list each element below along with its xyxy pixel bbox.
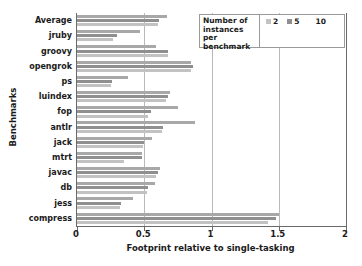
bar-javac-2: [77, 175, 156, 178]
bar-group-opengrok: [77, 59, 346, 74]
bar-groovy-2: [77, 54, 168, 57]
bar-javac-10: [77, 167, 160, 170]
bar-luindex-10: [77, 91, 170, 94]
legend-label-10: 10: [315, 17, 325, 26]
bar-compress-5: [77, 217, 276, 220]
y-tick-label-ps: ps: [62, 77, 73, 86]
x-axis-title: Footprint relative to single-tasking: [76, 243, 345, 253]
y-axis-labels: Averagejrubygroovyopengrokpsluindexfopan…: [0, 13, 76, 226]
legend-swatch-5: [287, 19, 292, 24]
bar-jack-2: [77, 145, 143, 148]
bar-group-jack: [77, 135, 346, 150]
bar-luindex-5: [77, 95, 168, 98]
bar-opengrok-5: [77, 65, 193, 68]
legend-label-5: 5: [294, 17, 299, 26]
y-tick-label-jack: jack: [54, 138, 72, 147]
bar-group-db: [77, 180, 346, 195]
y-tick-label-mtrt: mtrt: [52, 153, 72, 162]
bar-ps-2: [77, 84, 111, 87]
x-tick-label-1.5: 1.5: [270, 229, 285, 239]
bar-fop-2: [77, 115, 148, 118]
bar-groovy-5: [77, 50, 168, 53]
legend-item-2: 2: [266, 17, 278, 26]
legend: Number of instances per benchmark 2510: [199, 14, 345, 48]
bar-group-luindex: [77, 89, 346, 104]
bar-jess-5: [77, 202, 121, 205]
bar-luindex-2: [77, 99, 166, 102]
bar-jess-10: [77, 197, 133, 200]
bar-group-ps: [77, 74, 346, 89]
x-tick-label-0: 0: [73, 229, 79, 239]
bar-fop-5: [77, 110, 151, 113]
bar-jess-2: [77, 206, 120, 209]
bar-Average-2: [77, 23, 158, 26]
bar-group-compress: [77, 211, 346, 226]
x-tick-label-1: 1: [208, 229, 214, 239]
bar-opengrok-10: [77, 61, 191, 64]
legend-label-2: 2: [273, 17, 278, 26]
bar-group-fop: [77, 104, 346, 119]
bar-group-mtrt: [77, 150, 346, 165]
bar-javac-5: [77, 171, 158, 174]
bar-groovy-10: [77, 45, 156, 48]
bar-jruby-10: [77, 30, 140, 33]
chart-root: Benchmarks Averagejrubygroovyopengrokpsl…: [0, 0, 362, 266]
bar-Average-5: [77, 19, 159, 22]
bar-jack-10: [77, 137, 152, 140]
y-tick-label-antlr: antlr: [50, 123, 72, 132]
legend-title: Number of instances per benchmark: [200, 15, 260, 47]
bar-antlr-5: [77, 126, 163, 129]
y-tick-label-opengrok: opengrok: [29, 62, 72, 71]
bar-group-jess: [77, 196, 346, 211]
bar-jruby-5: [77, 34, 117, 37]
legend-item-5: 5: [287, 17, 299, 26]
legend-title-line-3: per benchmark: [203, 34, 256, 51]
plot-right-border: [346, 13, 347, 226]
bar-mtrt-2: [77, 160, 124, 163]
bar-group-antlr: [77, 120, 346, 135]
y-tick-label-db: db: [61, 183, 72, 192]
y-tick-label-luindex: luindex: [39, 92, 72, 101]
x-tick-label-0.5: 0.5: [136, 229, 151, 239]
y-tick-label-javac: javac: [49, 168, 73, 177]
bar-group-javac: [77, 165, 346, 180]
x-tick-label-2: 2: [342, 229, 348, 239]
y-tick-label-jess: jess: [54, 199, 72, 208]
legend-swatch-10: [308, 19, 313, 24]
bar-mtrt-10: [77, 152, 142, 155]
legend-entries: 2510: [260, 15, 344, 26]
bar-antlr-2: [77, 130, 162, 133]
y-tick-label-Average: Average: [35, 16, 72, 25]
bar-db-2: [77, 191, 147, 194]
bar-Average-10: [77, 15, 167, 18]
bar-jack-5: [77, 141, 144, 144]
y-tick-label-groovy: groovy: [41, 47, 72, 56]
y-tick-label-compress: compress: [29, 214, 72, 223]
legend-item-10: 10: [308, 17, 325, 26]
bar-mtrt-5: [77, 156, 142, 159]
bar-compress-10: [77, 213, 279, 216]
legend-swatch-2: [266, 19, 271, 24]
bar-db-5: [77, 186, 148, 189]
bar-fop-10: [77, 106, 178, 109]
bar-antlr-10: [77, 121, 195, 124]
y-tick-label-fop: fop: [57, 107, 72, 116]
bar-db-10: [77, 182, 155, 185]
y-tick-label-jruby: jruby: [49, 31, 72, 40]
bar-compress-2: [77, 221, 268, 224]
bar-jruby-2: [77, 38, 113, 41]
bar-opengrok-2: [77, 69, 191, 72]
bar-ps-5: [77, 80, 112, 83]
bar-ps-10: [77, 76, 128, 79]
